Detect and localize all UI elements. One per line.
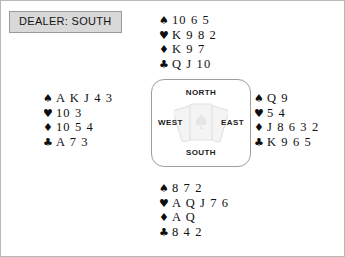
heart-icon: ♥ [43, 107, 56, 122]
hand-east-diamonds: J 8 6 3 2 [267, 120, 319, 135]
bridge-hand-diagram: DEALER: SOUTH ♠ 10 6 5 ♥ K 9 8 2 ♦ K 9 7… [0, 0, 345, 257]
diamond-icon: ♦ [43, 121, 56, 136]
compass-box: NORTH WEST EAST SOUTH [151, 79, 251, 167]
dealer-label-text: DEALER: SOUTH [19, 15, 112, 27]
hand-north-clubs: Q J 10 [172, 57, 211, 72]
hand-north-clubs-row: ♣ Q J 10 [159, 57, 217, 72]
hand-south-hearts: A Q J 7 6 [172, 196, 229, 211]
club-icon: ♣ [159, 226, 172, 241]
hand-west-hearts: 10 3 [56, 106, 82, 121]
hand-west-diamonds-row: ♦ 10 5 4 [43, 120, 113, 135]
hand-south-spades-row: ♠ 8 7 2 [159, 181, 229, 196]
hand-north-spades: 10 6 5 [172, 13, 210, 28]
diamond-icon: ♦ [254, 121, 267, 136]
hand-south-spades: 8 7 2 [172, 181, 203, 196]
compass-label-north: NORTH [186, 89, 216, 97]
spade-icon: ♠ [159, 14, 172, 29]
hand-west-hearts-row: ♥ 10 3 [43, 106, 113, 121]
hand-east-spades: Q 9 [267, 91, 289, 106]
heart-icon: ♥ [159, 197, 172, 212]
spade-icon: ♠ [43, 92, 56, 107]
spade-icon: ♠ [159, 182, 172, 197]
dealer-label: DEALER: SOUTH [9, 11, 122, 33]
compass-label-east: EAST [221, 119, 244, 127]
hand-north-hearts: K 9 8 2 [172, 28, 217, 43]
hand-east: ♠ Q 9 ♥ 5 4 ♦ J 8 6 3 2 ♣ K 9 6 5 [254, 91, 319, 149]
hand-north-diamonds-row: ♦ K 9 7 [159, 42, 217, 57]
hand-west-clubs-row: ♣ A 7 3 [43, 135, 113, 150]
hand-east-hearts-row: ♥ 5 4 [254, 106, 319, 121]
compass-label-south: SOUTH [186, 149, 216, 157]
hand-south-diamonds-row: ♦ A Q [159, 210, 229, 225]
hand-south-clubs-row: ♣ 8 4 2 [159, 225, 229, 240]
club-icon: ♣ [43, 136, 56, 151]
hand-north: ♠ 10 6 5 ♥ K 9 8 2 ♦ K 9 7 ♣ Q J 10 [159, 13, 217, 71]
club-icon: ♣ [254, 136, 267, 151]
hand-south: ♠ 8 7 2 ♥ A Q J 7 6 ♦ A Q ♣ 8 4 2 [159, 181, 229, 239]
hand-west: ♠ A K J 4 3 ♥ 10 3 ♦ 10 5 4 ♣ A 7 3 [43, 91, 113, 149]
hand-north-hearts-row: ♥ K 9 8 2 [159, 28, 217, 43]
heart-icon: ♥ [254, 107, 267, 122]
hand-south-diamonds: A Q [172, 210, 196, 225]
spade-icon: ♠ [254, 92, 267, 107]
hand-west-diamonds: 10 5 4 [56, 120, 94, 135]
compass-label-west: WEST [158, 119, 183, 127]
hand-east-clubs: K 9 6 5 [267, 135, 312, 150]
diamond-icon: ♦ [159, 43, 172, 58]
hand-south-hearts-row: ♥ A Q J 7 6 [159, 196, 229, 211]
hand-south-clubs: 8 4 2 [172, 225, 203, 240]
hand-west-spades: A K J 4 3 [56, 91, 113, 106]
hand-west-spades-row: ♠ A K J 4 3 [43, 91, 113, 106]
hand-east-hearts: 5 4 [267, 106, 286, 121]
club-icon: ♣ [159, 58, 172, 73]
hand-north-spades-row: ♠ 10 6 5 [159, 13, 217, 28]
heart-icon: ♥ [159, 29, 172, 44]
hand-west-clubs: A 7 3 [56, 135, 89, 150]
hand-north-diamonds: K 9 7 [172, 42, 205, 57]
hand-east-diamonds-row: ♦ J 8 6 3 2 [254, 120, 319, 135]
hand-east-clubs-row: ♣ K 9 6 5 [254, 135, 319, 150]
hand-east-spades-row: ♠ Q 9 [254, 91, 319, 106]
diamond-icon: ♦ [159, 211, 172, 226]
